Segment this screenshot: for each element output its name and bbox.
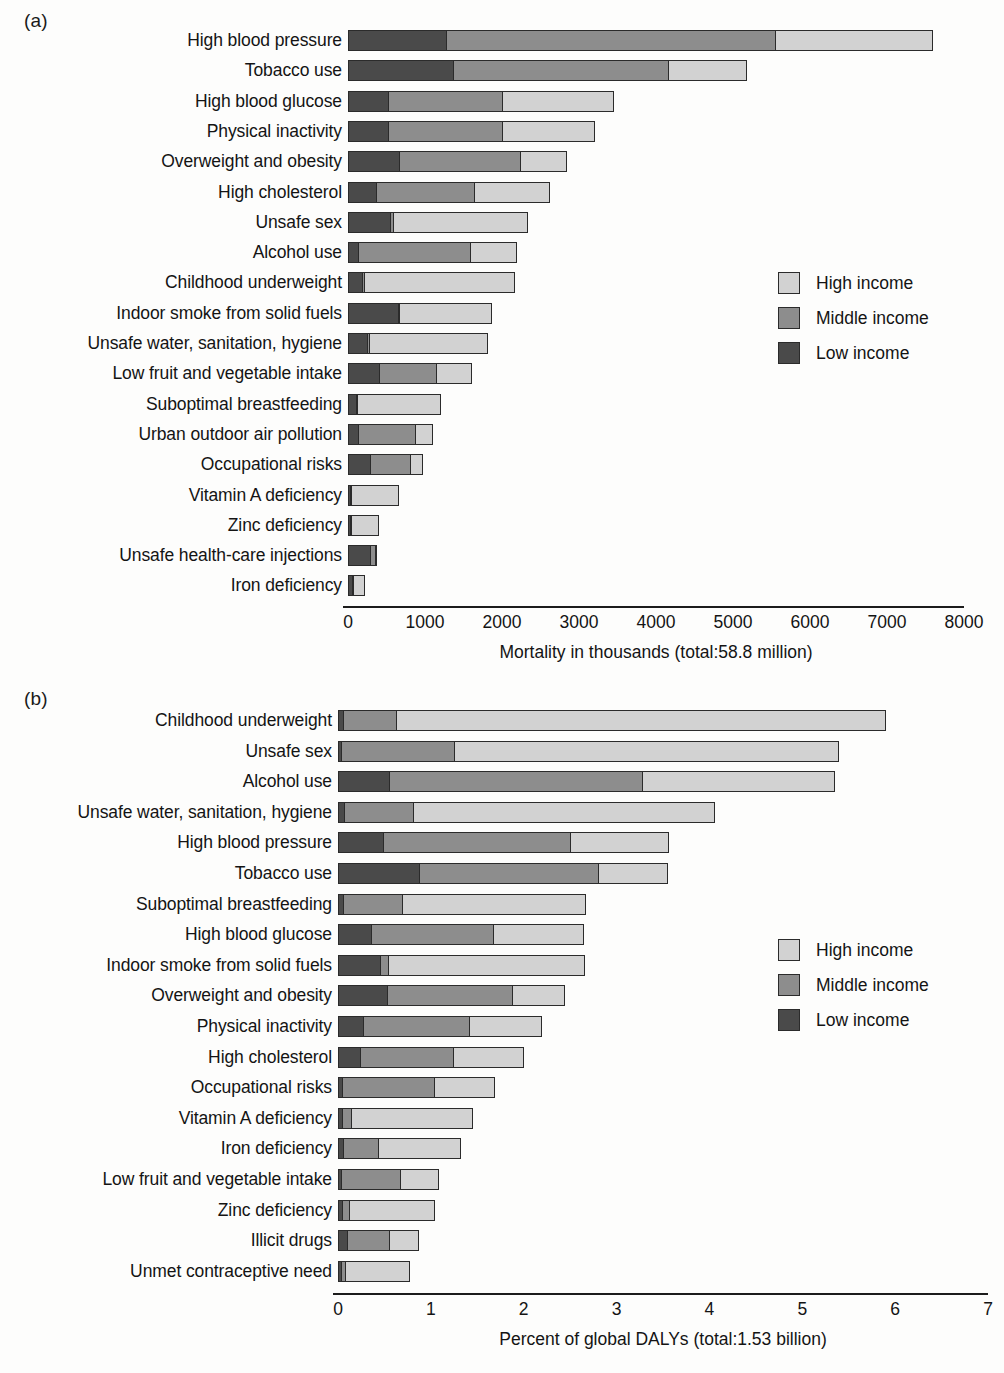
x-tick-label: 3 bbox=[612, 1299, 622, 1320]
bar-segment-high-income bbox=[502, 91, 614, 112]
bar-segment-middle-income bbox=[371, 924, 494, 945]
stacked-bar bbox=[338, 985, 565, 1006]
bar-segment-low-income bbox=[348, 242, 358, 263]
stacked-bar bbox=[348, 303, 492, 324]
figure-root: (a) High blood pressureTobacco useHigh b… bbox=[0, 0, 1004, 1373]
bar-segment-high-income bbox=[378, 1138, 462, 1159]
bar-segment-high-income bbox=[436, 363, 472, 384]
bar-segment-low-income bbox=[348, 454, 370, 475]
category-label: Overweight and obesity bbox=[151, 985, 332, 1006]
bar-segment-low-income bbox=[348, 545, 370, 566]
bar-segment-high-income bbox=[410, 454, 423, 475]
stacked-bar bbox=[338, 710, 886, 731]
bar-segment-high-income bbox=[351, 515, 379, 536]
category-label: Suboptimal breastfeeding bbox=[136, 894, 332, 915]
x-tick-label: 8000 bbox=[945, 612, 984, 633]
bar-segment-high-income bbox=[453, 1047, 524, 1068]
category-label: High cholesterol bbox=[218, 182, 342, 203]
bar-segment-high-income bbox=[520, 151, 567, 172]
category-label: Occupational risks bbox=[191, 1077, 332, 1098]
x-tick-label: 5 bbox=[797, 1299, 807, 1320]
bar-segment-high-income bbox=[399, 303, 492, 324]
stacked-bar bbox=[338, 1138, 461, 1159]
bar-segment-middle-income bbox=[358, 242, 470, 263]
stacked-bar bbox=[338, 832, 669, 853]
x-tick-label: 2000 bbox=[483, 612, 522, 633]
legend-label: Middle income bbox=[816, 975, 929, 996]
x-tick-label: 5000 bbox=[714, 612, 753, 633]
bar-segment-middle-income bbox=[343, 1138, 378, 1159]
stacked-bar bbox=[348, 121, 595, 142]
bar-segment-low-income bbox=[348, 333, 367, 354]
bar-segment-high-income bbox=[493, 924, 584, 945]
legend-item-low-income: Low income bbox=[778, 1005, 929, 1035]
panel-b-legend: High incomeMiddle incomeLow income bbox=[778, 935, 929, 1040]
legend-item-middle-income: Middle income bbox=[778, 303, 929, 333]
bar-segment-middle-income bbox=[388, 121, 502, 142]
category-label: High blood glucose bbox=[185, 924, 332, 945]
bar-segment-high-income bbox=[413, 802, 715, 823]
category-label: Unsafe sex bbox=[245, 741, 332, 762]
bar-segment-low-income bbox=[338, 1230, 347, 1251]
stacked-bar bbox=[348, 182, 550, 203]
bar-segment-high-income bbox=[642, 771, 835, 792]
stacked-bar bbox=[348, 515, 379, 536]
bar-segment-middle-income bbox=[379, 363, 436, 384]
bar-segment-middle-income bbox=[341, 741, 454, 762]
stacked-bar bbox=[338, 1169, 439, 1190]
category-label: Indoor smoke from solid fuels bbox=[106, 955, 332, 976]
bar-segment-high-income bbox=[434, 1077, 495, 1098]
bar-segment-high-income bbox=[369, 333, 488, 354]
bar-segment-middle-income bbox=[343, 894, 402, 915]
bar-segment-low-income bbox=[348, 151, 399, 172]
category-label: Low fruit and vegetable intake bbox=[112, 363, 342, 384]
legend-label: Middle income bbox=[816, 308, 929, 329]
stacked-bar bbox=[338, 1016, 542, 1037]
x-tick-label: 4 bbox=[705, 1299, 715, 1320]
x-tick-label: 6 bbox=[890, 1299, 900, 1320]
bar-segment-low-income bbox=[348, 212, 390, 233]
stacked-bar bbox=[348, 363, 472, 384]
stacked-bar bbox=[348, 485, 399, 506]
legend-swatch-low-income bbox=[778, 342, 800, 364]
category-label: Physical inactivity bbox=[207, 121, 342, 142]
category-label: Unsafe sex bbox=[255, 212, 342, 233]
bar-segment-low-income bbox=[348, 394, 356, 415]
bar-segment-low-income bbox=[348, 182, 376, 203]
category-label: Physical inactivity bbox=[197, 1016, 332, 1037]
category-label: Vitamin A deficiency bbox=[179, 1108, 332, 1129]
category-label: Occupational risks bbox=[201, 454, 342, 475]
bar-segment-middle-income bbox=[389, 771, 642, 792]
bar-segment-middle-income bbox=[388, 91, 502, 112]
bar-segment-high-income bbox=[393, 212, 529, 233]
legend-item-low-income: Low income bbox=[778, 338, 929, 368]
bar-segment-low-income bbox=[348, 303, 398, 324]
bar-segment-middle-income bbox=[360, 1047, 453, 1068]
panel-b-category-labels: Childhood underweightUnsafe sexAlcohol u… bbox=[4, 706, 332, 1293]
stacked-bar bbox=[348, 575, 365, 596]
bar-segment-low-income bbox=[338, 863, 419, 884]
bar-segment-high-income bbox=[512, 985, 566, 1006]
bar-segment-low-income bbox=[338, 1016, 363, 1037]
bar-segment-low-income bbox=[338, 771, 389, 792]
stacked-bar bbox=[338, 1077, 495, 1098]
legend-item-high-income: High income bbox=[778, 268, 929, 298]
bar-segment-high-income bbox=[668, 60, 747, 81]
bar-segment-middle-income bbox=[358, 424, 415, 445]
bar-segment-high-income bbox=[357, 394, 441, 415]
stacked-bar bbox=[338, 741, 839, 762]
panel-a: (a) High blood pressureTobacco useHigh b… bbox=[0, 0, 1004, 680]
category-label: Unsafe water, sanitation, hygiene bbox=[77, 802, 332, 823]
x-tick-label: 4000 bbox=[637, 612, 676, 633]
stacked-bar bbox=[338, 955, 585, 976]
stacked-bar bbox=[338, 894, 586, 915]
bar-segment-low-income bbox=[348, 121, 388, 142]
category-label: Unsafe health-care injections bbox=[119, 545, 342, 566]
bar-segment-low-income bbox=[338, 1047, 360, 1068]
stacked-bar bbox=[348, 333, 488, 354]
bar-segment-high-income bbox=[389, 1230, 419, 1251]
stacked-bar bbox=[338, 924, 584, 945]
bar-segment-high-income bbox=[400, 1169, 439, 1190]
bar-segment-high-income bbox=[454, 741, 839, 762]
legend-swatch-high-income bbox=[778, 272, 800, 294]
